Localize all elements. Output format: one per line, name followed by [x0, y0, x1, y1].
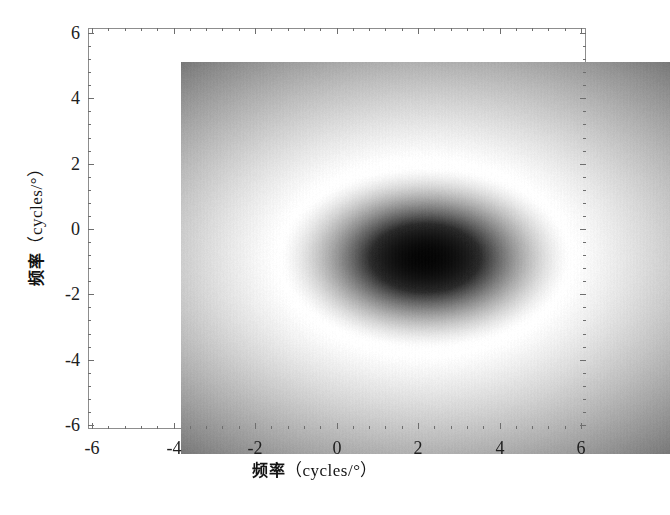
- x-tick-minor-top: [190, 28, 191, 31]
- y-tick-minor: [88, 281, 91, 282]
- x-axis-title-cjk: 频率: [252, 461, 285, 480]
- x-tick-label: 2: [388, 439, 448, 457]
- x-tick-minor-top: [434, 28, 435, 31]
- x-tick-minor: [516, 426, 517, 429]
- x-tick-minor: [288, 426, 289, 429]
- x-tick-minor: [369, 426, 370, 429]
- y-tick-major: [88, 98, 94, 99]
- y-tick-major-right: [580, 98, 586, 99]
- y-tick-minor: [88, 203, 91, 204]
- y-tick-minor-right: [583, 320, 586, 321]
- x-tick-major: [418, 423, 419, 429]
- y-tick-minor-right: [583, 59, 586, 60]
- x-tick-label: -2: [225, 439, 285, 457]
- x-tick-minor: [548, 426, 549, 429]
- x-tick-label: -6: [62, 439, 122, 457]
- x-tick-minor-top: [206, 28, 207, 31]
- x-tick-minor-top: [239, 28, 240, 31]
- x-tick-minor-top: [516, 28, 517, 31]
- x-tick-minor-top: [157, 28, 158, 31]
- x-tick-major: [174, 423, 175, 429]
- y-tick-minor: [88, 59, 91, 60]
- y-tick-major-right: [580, 425, 586, 426]
- y-tick-minor: [88, 177, 91, 178]
- x-tick-minor: [320, 426, 321, 429]
- y-tick-minor: [88, 320, 91, 321]
- x-axis-title-unit: （cycles/°）: [285, 461, 378, 480]
- x-axis-title: 频率（cycles/°）: [0, 456, 630, 481]
- x-tick-minor-top: [451, 28, 452, 31]
- x-tick-minor-top: [467, 28, 468, 31]
- x-tick-minor: [483, 426, 484, 429]
- x-tick-minor: [125, 426, 126, 429]
- y-tick-minor-right: [583, 307, 586, 308]
- y-tick-minor-right: [583, 72, 586, 73]
- y-tick-label: -4: [36, 351, 80, 369]
- y-tick-minor-right: [583, 85, 586, 86]
- x-tick-minor-top: [271, 28, 272, 31]
- y-tick-major: [88, 425, 94, 426]
- x-tick-minor: [222, 426, 223, 429]
- x-tick-minor: [271, 426, 272, 429]
- x-tick-minor-top: [402, 28, 403, 31]
- x-tick-minor-top: [369, 28, 370, 31]
- y-tick-minor-right: [583, 399, 586, 400]
- x-tick-major-top: [255, 28, 256, 34]
- y-tick-minor: [88, 138, 91, 139]
- x-tick-major-top: [337, 28, 338, 34]
- heatmap-canvas: [181, 62, 670, 454]
- y-tick-minor-right: [583, 203, 586, 204]
- x-tick-minor: [108, 426, 109, 429]
- x-tick-label: 0: [307, 439, 367, 457]
- y-tick-major: [88, 33, 94, 34]
- x-tick-major-top: [418, 28, 419, 34]
- y-tick-minor-right: [583, 347, 586, 348]
- x-tick-major: [92, 423, 93, 429]
- y-tick-minor: [88, 347, 91, 348]
- y-axis-title: 频率（cycles/°）: [22, 93, 47, 353]
- y-tick-minor: [88, 124, 91, 125]
- y-tick-minor: [88, 216, 91, 217]
- y-tick-major: [88, 164, 94, 165]
- x-tick-minor-top: [222, 28, 223, 31]
- x-tick-major: [581, 423, 582, 429]
- y-tick-minor: [88, 85, 91, 86]
- y-tick-minor: [88, 412, 91, 413]
- y-tick-minor-right: [583, 124, 586, 125]
- x-tick-minor-top: [483, 28, 484, 31]
- x-tick-major-top: [500, 28, 501, 34]
- y-tick-minor-right: [583, 281, 586, 282]
- x-tick-minor: [239, 426, 240, 429]
- x-tick-minor: [451, 426, 452, 429]
- y-tick-minor: [88, 190, 91, 191]
- x-tick-minor: [141, 426, 142, 429]
- x-tick-minor: [565, 426, 566, 429]
- x-tick-minor: [434, 426, 435, 429]
- y-tick-major-right: [580, 294, 586, 295]
- y-tick-minor-right: [583, 373, 586, 374]
- y-tick-minor-right: [583, 242, 586, 243]
- y-tick-minor-right: [583, 190, 586, 191]
- y-tick-minor-right: [583, 386, 586, 387]
- x-tick-major: [337, 423, 338, 429]
- y-tick-major-right: [580, 33, 586, 34]
- y-tick-major: [88, 294, 94, 295]
- x-tick-minor: [467, 426, 468, 429]
- x-tick-label: -4: [144, 439, 204, 457]
- y-axis-title-unit: （cycles/°）: [27, 160, 46, 253]
- x-tick-minor-top: [320, 28, 321, 31]
- y-tick-minor: [88, 242, 91, 243]
- y-tick-minor-right: [583, 255, 586, 256]
- y-tick-minor: [88, 334, 91, 335]
- y-axis-title-cjk: 频率: [27, 253, 46, 286]
- y-tick-label: -6: [36, 416, 80, 434]
- y-tick-major: [88, 360, 94, 361]
- x-tick-minor: [206, 426, 207, 429]
- y-tick-minor: [88, 307, 91, 308]
- x-tick-minor: [353, 426, 354, 429]
- x-tick-minor-top: [108, 28, 109, 31]
- x-tick-major: [500, 423, 501, 429]
- y-tick-minor-right: [583, 334, 586, 335]
- x-tick-minor-top: [304, 28, 305, 31]
- x-tick-minor-top: [288, 28, 289, 31]
